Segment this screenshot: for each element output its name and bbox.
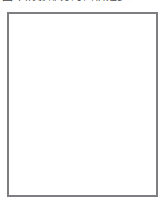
geometry-figure: AB — [0, 9, 165, 203]
figure-canvas: AB — [0, 9, 165, 203]
caption-strip: 图中阴影部分的面积是多少？ — [0, 0, 165, 9]
figure-frame-outline — [8, 13, 157, 196]
caption-text: 图中阴影部分的面积是多少？ — [2, 0, 165, 3]
